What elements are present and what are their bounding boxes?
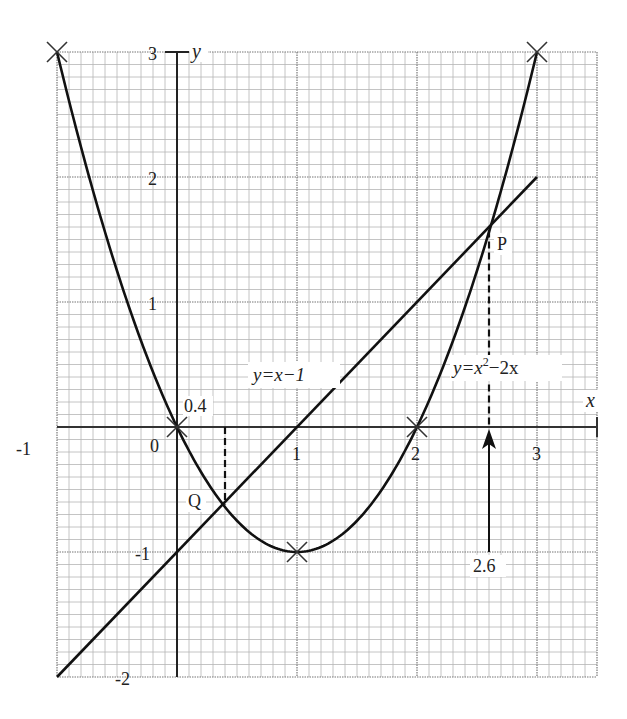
x-tick-label: 0 — [150, 436, 159, 456]
y-tick-label: 2 — [148, 169, 157, 189]
y-tick-label: 3 — [148, 44, 157, 64]
line-equation-label: y=x−1 — [251, 364, 305, 385]
point-p-label: P — [497, 234, 507, 254]
graph: -1 0 1 2 3 3 2 1 -1 -2 y x y=x−1 y=x2−2x… — [0, 0, 627, 719]
y-tick-label: -2 — [115, 669, 130, 689]
y-tick-label: 1 — [148, 294, 157, 314]
y-tick-label: -1 — [135, 544, 150, 564]
x-tick-label: 3 — [532, 444, 541, 464]
point-q-label: Q — [188, 491, 201, 511]
x-tick-label: -1 — [16, 439, 31, 459]
x-value-label-p: 2.6 — [473, 556, 496, 576]
x-value-label-q: 0.4 — [184, 396, 207, 416]
x-tick-label: 2 — [411, 444, 420, 464]
x-axis-label: x — [585, 389, 595, 411]
x-tick-label: 1 — [292, 444, 301, 464]
annotations — [225, 231, 496, 553]
y-axis-label: y — [190, 40, 201, 63]
